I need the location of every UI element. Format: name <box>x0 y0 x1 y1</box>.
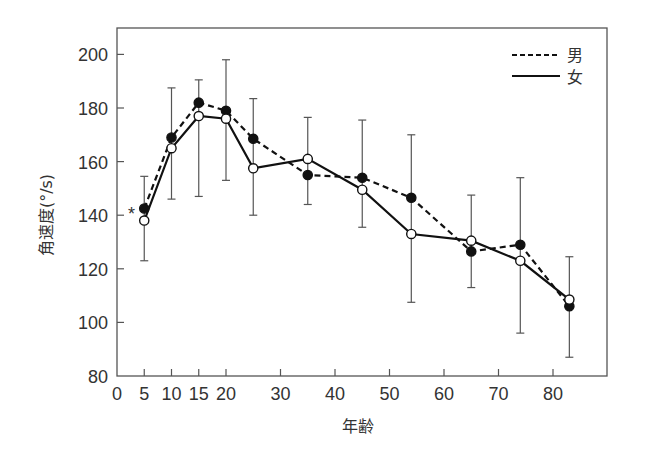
x-tick-label: 5 <box>139 384 149 404</box>
female-data-point <box>303 154 312 163</box>
error-bars <box>140 60 573 357</box>
y-axis-title: 角速度(°/s) <box>37 174 56 256</box>
y-tick-label: 160 <box>78 153 108 173</box>
y-tick-label: 200 <box>78 45 108 65</box>
male-data-point <box>516 240 525 249</box>
x-tick-label: 60 <box>434 384 454 404</box>
y-tick-label: 100 <box>78 313 108 333</box>
series-line-female <box>144 116 569 300</box>
x-tick-label: 0 <box>112 384 122 404</box>
male-data-point <box>407 193 416 202</box>
male-data-point <box>249 134 258 143</box>
series-lines <box>144 103 569 307</box>
chart: 80100120140160180200 0510152030405060708… <box>0 0 645 454</box>
female-data-point <box>140 216 149 225</box>
male-data-point <box>467 247 476 256</box>
x-tick-label: 30 <box>270 384 290 404</box>
x-tick-label: 10 <box>161 384 181 404</box>
male-data-point <box>167 133 176 142</box>
male-data-point <box>194 98 203 107</box>
male-data-point <box>303 170 312 179</box>
female-data-point <box>516 256 525 265</box>
female-data-point <box>221 114 230 123</box>
y-tick-label: 140 <box>78 206 108 226</box>
x-tick-label: 40 <box>325 384 345 404</box>
x-tick-label: 70 <box>488 384 508 404</box>
female-data-point <box>194 111 203 120</box>
x-axis: 05101520304050607080 <box>112 369 563 404</box>
legend-female-label: 女 <box>567 68 583 87</box>
x-axis-title: 年齢 <box>342 417 374 436</box>
legend-male-label: 男 <box>567 46 583 65</box>
y-tick-label: 120 <box>78 260 108 280</box>
x-tick-label: 80 <box>543 384 563 404</box>
series-markers <box>140 98 574 311</box>
female-data-point <box>565 295 574 304</box>
female-data-point <box>358 185 367 194</box>
x-tick-label: 15 <box>189 384 209 404</box>
female-data-point <box>167 144 176 153</box>
significance-asterisk: * <box>128 204 135 224</box>
y-tick-label: 180 <box>78 99 108 119</box>
y-tick-label: 80 <box>88 367 108 387</box>
x-tick-label: 50 <box>379 384 399 404</box>
legend: 男 女 <box>512 46 583 87</box>
female-data-point <box>407 229 416 238</box>
male-data-point <box>140 204 149 213</box>
female-data-point <box>467 236 476 245</box>
series-line-male <box>144 103 569 307</box>
x-tick-label: 20 <box>216 384 236 404</box>
male-data-point <box>358 173 367 182</box>
female-data-point <box>249 164 258 173</box>
